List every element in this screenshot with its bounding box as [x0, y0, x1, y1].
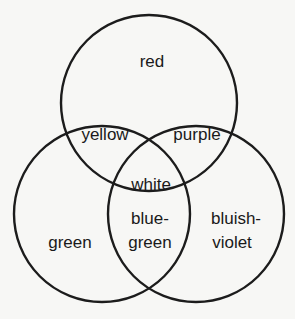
red-circle	[61, 15, 237, 191]
label-red: red	[140, 52, 165, 71]
label-green: green	[48, 233, 91, 252]
label-bluish-violet-line2: violet	[212, 233, 252, 252]
label-white: white	[130, 175, 171, 194]
label-blue-green-line1: blue-	[131, 209, 169, 228]
label-yellow: yellow	[81, 125, 129, 144]
venn-diagram: red yellow purple white blue- green gree…	[0, 0, 295, 319]
label-blue-green-line2: green	[128, 233, 171, 252]
label-purple: purple	[173, 125, 220, 144]
label-bluish-violet-line1: bluish-	[211, 209, 261, 228]
